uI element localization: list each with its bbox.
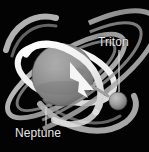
neptune-triton-diagram: Triton Neptune [0, 0, 149, 152]
triton-label: Triton [98, 36, 129, 49]
neptune-label: Neptune [15, 127, 61, 140]
triton-moon [109, 92, 127, 110]
